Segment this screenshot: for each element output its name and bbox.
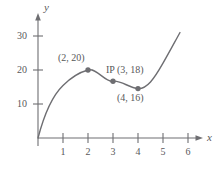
point-marker-local-min: [135, 86, 140, 91]
point-marker-inflection: [110, 79, 115, 84]
x-axis-label: x: [207, 131, 212, 143]
point-marker-local-max: [85, 67, 90, 72]
x-axis-arrow: [196, 135, 204, 141]
point-label-local-max: (2, 20): [58, 52, 85, 63]
graph-figure: y x 30 20 10 1 2 3 4 5 6 (2, 20) IP (3, …: [0, 0, 217, 172]
x-tick-label-6: 6: [180, 146, 196, 157]
function-curve: [38, 33, 180, 139]
y-tick-label-20: 20: [13, 64, 31, 75]
x-tick-label-1: 1: [55, 146, 71, 157]
y-axis-label: y: [44, 1, 49, 13]
y-axis-arrow: [35, 13, 41, 21]
x-tick-label-3: 3: [105, 146, 121, 157]
x-tick-label-2: 2: [80, 146, 96, 157]
point-label-inflection: IP (3, 18): [106, 64, 144, 75]
x-tick-label-5: 5: [155, 146, 171, 157]
y-tick-label-10: 10: [13, 98, 31, 109]
point-label-local-min: (4, 16): [117, 92, 144, 103]
x-tick-label-4: 4: [130, 146, 146, 157]
y-tick-label-30: 30: [13, 30, 31, 41]
